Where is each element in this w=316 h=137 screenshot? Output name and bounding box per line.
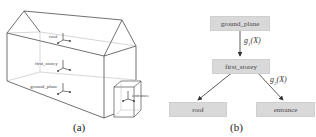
panel-a-3d-house: roof first_storey ground_plane entrance … — [0, 0, 160, 137]
ground-plane-label: ground_plane — [30, 84, 58, 89]
edge-label-g2: g2(X) — [270, 75, 287, 86]
house-wireframe — [0, 0, 160, 137]
caption-a: (a) — [73, 121, 85, 133]
node-ground-plane: ground_plane — [210, 16, 270, 31]
node-first-storey: first_storey — [212, 59, 270, 74]
panel-b-graph: ground_plane first_storey roof entrance … — [160, 0, 316, 137]
entrance-label: entrance — [132, 93, 149, 98]
roof-label: roof — [49, 34, 57, 39]
node-roof: roof — [169, 102, 227, 117]
caption-b: (b) — [230, 121, 243, 133]
edge-label-g1: g1(X) — [244, 36, 261, 47]
first-storey-label: first_storey — [35, 61, 58, 66]
node-entrance: entrance — [256, 102, 315, 117]
